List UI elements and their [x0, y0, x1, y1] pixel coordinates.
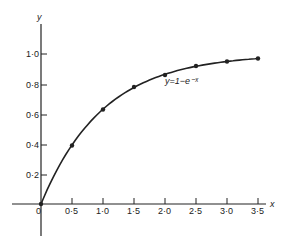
y-axis-label: y [36, 12, 42, 22]
x-tick-label: 3·5 [251, 206, 264, 216]
y-tick-label: 0·4 [26, 140, 39, 150]
x-tick-label: 1·0 [96, 206, 109, 216]
curve-line [41, 59, 258, 205]
y-tick-label: 0·6 [26, 110, 39, 120]
x-ticks: 0 0·5 1·0 1·5 2·0 2·5 3·0 3·5 [36, 198, 264, 216]
y-ticks: 1·0 0·8 0·6 0·4 0·2 [26, 49, 47, 180]
data-point [256, 56, 260, 60]
y-tick-label: 1·0 [26, 49, 39, 59]
x-tick-label: 3·0 [220, 206, 233, 216]
x-tick-label: 2·5 [189, 206, 202, 216]
data-point [101, 107, 105, 111]
y-tick-label: 0·8 [26, 80, 39, 90]
curve-annotation: y=1−e⁻ˣ [164, 76, 199, 86]
x-tick-label: 2·0 [158, 206, 171, 216]
x-tick-label: 0·5 [65, 206, 78, 216]
y-tick-label: 0·2 [26, 170, 39, 180]
data-points [39, 56, 260, 206]
chart: y x 1·0 0·8 0·6 0·4 0·2 0 0·5 1·0 1·5 2·… [0, 0, 290, 248]
data-point [225, 59, 229, 63]
data-point [39, 202, 43, 206]
x-tick-label: 1·5 [127, 206, 140, 216]
data-point [132, 85, 136, 89]
x-axis-label: x [269, 199, 275, 209]
origin-label: 0 [36, 206, 41, 216]
data-point [194, 64, 198, 68]
data-point [70, 143, 74, 147]
